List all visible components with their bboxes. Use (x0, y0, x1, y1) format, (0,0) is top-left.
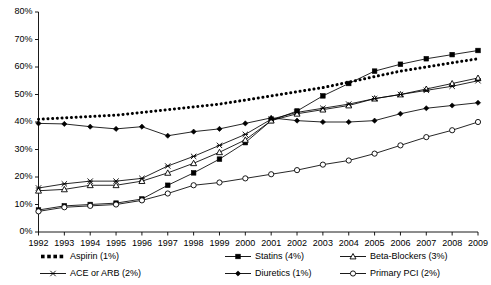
x-tick-label: 2006 (387, 238, 413, 248)
series-line (39, 103, 479, 136)
x-tick-label: 2001 (258, 238, 284, 248)
legend-marker-star-x-icon (38, 268, 68, 279)
series-marker (346, 81, 351, 86)
series-marker (294, 118, 299, 123)
series-marker (217, 157, 222, 162)
series-marker (139, 198, 144, 203)
x-tick-label: 2004 (336, 238, 362, 248)
series-diuretics-1 (36, 100, 481, 138)
legend-item[interactable]: Aspirin (1%) (38, 249, 119, 264)
series-marker (191, 171, 196, 176)
series-marker (88, 203, 93, 208)
x-tick-label: 1995 (103, 238, 129, 248)
x-tick-label: 2005 (362, 238, 388, 248)
series-marker (398, 62, 403, 67)
series-primary-pci-2 (36, 119, 481, 214)
x-tick-label: 1993 (51, 238, 77, 248)
series-marker (242, 137, 248, 142)
series-marker (320, 162, 325, 167)
series-line (39, 59, 479, 120)
series-marker (217, 126, 222, 131)
series-marker (165, 183, 170, 188)
series-marker (191, 160, 197, 165)
series-marker (62, 205, 67, 210)
chart-axes (35, 12, 478, 236)
series-marker (217, 143, 222, 148)
x-tick-label: 2009 (465, 238, 491, 248)
legend-marker (235, 271, 240, 276)
y-tick-label: 50% (0, 89, 33, 99)
legend-item-label: Statins (4%) (255, 251, 304, 262)
series-line (39, 122, 479, 211)
x-tick-label: 2003 (310, 238, 336, 248)
series-marker (88, 124, 93, 129)
y-tick-label: 70% (0, 34, 33, 44)
x-tick-label: 2000 (232, 238, 258, 248)
series-marker (372, 69, 377, 74)
series-marker (475, 75, 481, 80)
legend-marker (350, 271, 355, 276)
y-tick-label: 10% (0, 199, 33, 209)
series-marker (269, 172, 274, 177)
series-aspirin-1 (39, 59, 479, 120)
series-marker (191, 154, 196, 159)
series-marker (36, 209, 41, 214)
series-marker (450, 52, 455, 57)
series-marker (62, 121, 67, 126)
series-marker (165, 163, 170, 168)
y-tick-label: 0% (0, 226, 33, 236)
legend-item-label: Diuretics (1%) (255, 268, 312, 279)
series-marker (217, 180, 222, 185)
y-tick-label: 20% (0, 171, 33, 181)
series-marker (320, 119, 325, 124)
series-marker (398, 111, 403, 116)
x-tick-label: 1999 (206, 238, 232, 248)
series-marker (113, 202, 118, 207)
legend-item-label: ACE or ARB (2%) (70, 268, 141, 279)
series-marker (243, 121, 248, 126)
legend-marker-filled-square-icon (223, 251, 253, 262)
chart-series-layer (36, 48, 482, 214)
legend-item[interactable]: ACE or ARB (2%) (38, 266, 141, 281)
series-marker (165, 191, 170, 196)
legend-marker (236, 254, 241, 259)
series-marker (294, 168, 299, 173)
series-marker (372, 151, 377, 156)
legend-item[interactable]: Beta-Blockers (3%) (338, 249, 448, 264)
series-marker (450, 103, 455, 108)
series-marker (243, 176, 248, 181)
series-marker (398, 143, 403, 148)
series-marker (424, 106, 429, 111)
x-tick-label: 1992 (26, 238, 52, 248)
series-marker (321, 94, 326, 99)
legend-marker-filled-diamond-icon (223, 268, 253, 279)
x-tick-label: 1994 (77, 238, 103, 248)
x-tick-label: 1997 (155, 238, 181, 248)
series-marker (216, 149, 222, 154)
series-ace-or-arb-2 (36, 78, 481, 191)
legend-item-label: Aspirin (1%) (70, 251, 119, 262)
series-marker (165, 133, 170, 138)
y-tick-label: 80% (0, 6, 33, 16)
series-marker (165, 170, 171, 175)
x-tick-label: 2008 (439, 238, 465, 248)
legend-item[interactable]: Statins (4%) (223, 249, 304, 264)
series-marker (113, 126, 118, 131)
y-tick-label: 40% (0, 116, 33, 126)
series-marker (476, 48, 481, 53)
x-tick-label: 1998 (181, 238, 207, 248)
y-tick-label: 30% (0, 144, 33, 154)
series-marker (346, 158, 351, 163)
series-marker (346, 119, 351, 124)
series-marker (139, 124, 144, 129)
series-marker (475, 119, 480, 124)
legend-item-label: Beta-Blockers (3%) (370, 251, 448, 262)
legend-marker-open-circle-icon (338, 268, 368, 279)
series-marker (191, 183, 196, 188)
y-tick-label: 60% (0, 61, 33, 71)
legend-item[interactable]: Diuretics (1%) (223, 266, 312, 281)
series-marker (424, 56, 429, 61)
x-tick-label: 2007 (413, 238, 439, 248)
legend-item[interactable]: Primary PCI (2%) (338, 266, 440, 281)
